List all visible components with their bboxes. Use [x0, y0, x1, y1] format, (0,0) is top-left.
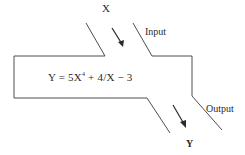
function-machine-diagram: X Input Y = 5X4 + 4/X − 3 Output Y [0, 0, 245, 155]
formula-lhs: Y [48, 71, 56, 83]
output-label: Output [206, 104, 234, 114]
formula: Y = 5X4 + 4/X − 3 [48, 71, 133, 83]
formula-rest: + 4/X − 3 [85, 71, 132, 83]
input-label: Input [145, 27, 166, 37]
output-arrow-icon [173, 105, 186, 128]
input-arrow-icon [112, 28, 124, 47]
input-variable-label: X [102, 3, 110, 14]
formula-equals: = [59, 71, 65, 83]
formula-term1: 5X [68, 71, 82, 83]
output-variable-label: Y [186, 139, 193, 149]
